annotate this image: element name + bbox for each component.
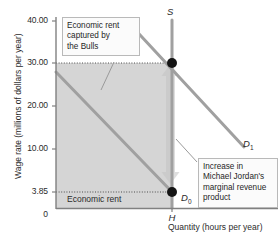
callout-bulls-rent: Economic rent captured by the Bulls xyxy=(62,17,140,56)
callout-increase-line1: Increase in xyxy=(203,162,273,172)
leader-line-increase xyxy=(176,139,197,162)
economic-rent-label: Economic rent xyxy=(67,194,121,204)
supply-curve-label: S xyxy=(167,6,173,17)
callout-increase-line2: Michael Jordan's xyxy=(203,172,273,182)
x-axis-title: Quantity (hours per year) xyxy=(168,222,262,232)
equilibrium-dot-lower xyxy=(167,187,177,197)
callout-bulls-line3: the Bulls xyxy=(67,42,135,52)
callout-bulls-line1: Economic rent xyxy=(67,21,135,31)
y-axis-title: Wage rate (millions of dollars per year) xyxy=(13,39,23,179)
economic-rent-chart: 40.00 30.00 20.00 10.00 3.85 0 H Wage ra… xyxy=(0,0,280,236)
equilibrium-dot-upper xyxy=(167,58,177,68)
origin-label: 0 xyxy=(12,209,48,219)
y-tick-label-40: 40.00 xyxy=(12,15,48,25)
demand1-curve-label: D1 xyxy=(243,138,254,151)
callout-increase-line4: product xyxy=(203,193,273,203)
callout-increase-line3: marginal revenue xyxy=(203,183,273,193)
y-tick-label-385: 3.85 xyxy=(12,186,48,196)
callout-mrp-increase: Increase in Michael Jordan's marginal re… xyxy=(198,158,278,208)
demand0-curve-label: D0 xyxy=(181,192,192,205)
callout-bulls-line2: captured by xyxy=(67,31,135,41)
